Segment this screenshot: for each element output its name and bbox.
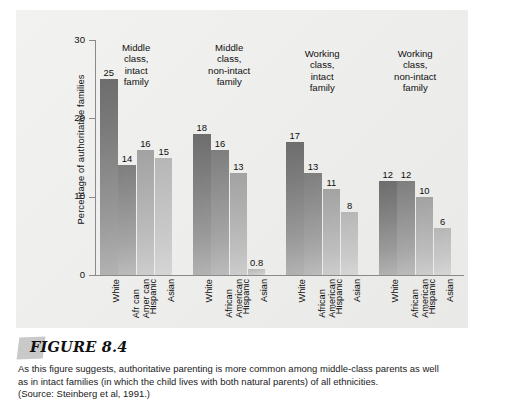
x-axis-category-label-line: Asian bbox=[446, 279, 456, 302]
x-axis-category-label-line: Asian bbox=[353, 279, 363, 302]
x-axis-category-label-line: White bbox=[205, 279, 215, 303]
bar-value-label: 13 bbox=[308, 161, 318, 172]
x-axis-category-label: White bbox=[298, 279, 308, 303]
bar-fill bbox=[230, 173, 248, 275]
x-axis-category-label-line: White bbox=[391, 279, 401, 303]
caption-line-3: (Source: Steinberg et al, 1991.) bbox=[18, 388, 488, 401]
x-axis-category-label: Asian bbox=[446, 279, 456, 302]
bar-fill bbox=[304, 173, 322, 275]
x-axis-category-label: Hispanic bbox=[428, 279, 438, 314]
x-axis-category-label: Hispanic bbox=[149, 279, 159, 314]
bar: 25 bbox=[100, 79, 118, 275]
bar-fill bbox=[434, 228, 452, 275]
x-axis-category-label-line: White bbox=[298, 279, 308, 303]
x-axis-category-label-line: Hispanic bbox=[335, 279, 345, 314]
bar-value-label: 6 bbox=[440, 216, 445, 227]
x-axis-category-label-line: White bbox=[112, 279, 122, 303]
bar-value-label: 14 bbox=[122, 153, 132, 164]
bar: 6 bbox=[434, 228, 452, 275]
bar-value-label: 8 bbox=[347, 200, 352, 211]
bar-value-label: 11 bbox=[326, 177, 336, 188]
bar-fill bbox=[248, 269, 266, 275]
bar: 0.8 bbox=[248, 269, 266, 275]
bar-value-label: 0.8 bbox=[250, 257, 263, 268]
x-axis-category-label-line: Asian bbox=[167, 279, 177, 302]
figure-caption-text: As this figure suggests, authoritative p… bbox=[18, 363, 488, 401]
bar: 11 bbox=[323, 189, 341, 275]
bar-fill bbox=[286, 142, 304, 275]
bar: 16 bbox=[211, 150, 229, 275]
bar: 17 bbox=[286, 142, 304, 275]
bar-fill bbox=[323, 189, 341, 275]
bar-value-label: 12 bbox=[383, 169, 393, 180]
bar-fill bbox=[137, 150, 155, 275]
bar: 10 bbox=[416, 197, 434, 275]
x-axis-category-label-line: Asian bbox=[260, 279, 270, 302]
chart-panel: Percentage of authoritative families 010… bbox=[16, 10, 468, 328]
x-axis-category-label: Hispanic bbox=[335, 279, 345, 314]
bar-fill bbox=[341, 212, 359, 275]
caption-line-1: As this figure suggests, authoritative p… bbox=[18, 363, 488, 376]
bar-value-label: 13 bbox=[233, 161, 243, 172]
x-axis-category-label: Asian bbox=[353, 279, 363, 302]
bar-fill bbox=[211, 150, 229, 275]
x-axis-category-label: Asian bbox=[260, 279, 270, 302]
bar-value-label: 12 bbox=[401, 169, 411, 180]
x-axis-category-label-line: Hispanic bbox=[242, 279, 252, 314]
x-axis-category-label: White bbox=[112, 279, 122, 303]
bar-value-label: 10 bbox=[419, 185, 429, 196]
bar: 8 bbox=[341, 212, 359, 275]
bar-fill bbox=[416, 197, 434, 275]
x-axis-category-label: Asian bbox=[167, 279, 177, 302]
bar-fill bbox=[100, 79, 118, 275]
x-axis-category-label-line: Hispanic bbox=[428, 279, 438, 314]
bar: 12 bbox=[397, 181, 415, 275]
bar-value-label: 25 bbox=[104, 67, 114, 78]
caption-line-2: as in intact families (in which the chil… bbox=[18, 376, 488, 389]
bar-fill bbox=[397, 181, 415, 275]
figure-caption-block: FIGURE 8.4 As this figure suggests, auth… bbox=[16, 333, 494, 411]
x-axis-category-label-line: Hispanic bbox=[149, 279, 159, 314]
bar-fill bbox=[379, 181, 397, 275]
x-axis-category-label: White bbox=[205, 279, 215, 303]
figure-number-label: FIGURE 8.4 bbox=[30, 338, 127, 355]
bar: 14 bbox=[118, 165, 136, 275]
bar-value-label: 16 bbox=[215, 138, 225, 149]
bar-value-label: 16 bbox=[140, 138, 150, 149]
bar: 16 bbox=[137, 150, 155, 275]
bar: 13 bbox=[230, 173, 248, 275]
bar-fill bbox=[118, 165, 136, 275]
bar: 18 bbox=[193, 134, 211, 275]
bar: 15 bbox=[155, 158, 173, 276]
x-axis-category-label: Hispanic bbox=[242, 279, 252, 314]
bar: 13 bbox=[304, 173, 322, 275]
figure-page: Percentage of authoritative families 010… bbox=[0, 0, 510, 415]
bar-value-label: 17 bbox=[290, 130, 300, 141]
x-axis-category-label: White bbox=[391, 279, 401, 303]
bar-value-label: 15 bbox=[158, 146, 168, 157]
bar-fill bbox=[155, 158, 173, 276]
bar-fill bbox=[193, 134, 211, 275]
bar: 12 bbox=[379, 181, 397, 275]
bar-value-label: 18 bbox=[197, 122, 207, 133]
